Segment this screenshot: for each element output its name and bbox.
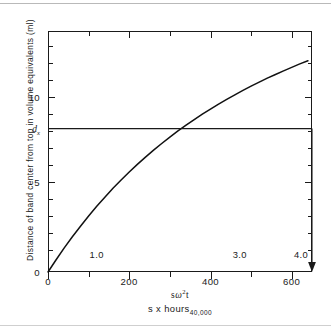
chart-data-layer (0, 0, 331, 330)
data-curve-band-center (48, 61, 308, 272)
figure-container: Distance of band center from top in volu… (0, 0, 331, 330)
dx-arrowhead-icon (308, 262, 316, 272)
